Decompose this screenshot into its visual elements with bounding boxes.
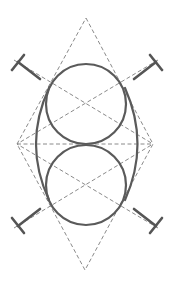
- t-mark-stem: [18, 62, 40, 79]
- t-mark-stem: [134, 209, 156, 226]
- diagram-canvas: Oval construction from two tangent circl…: [0, 0, 174, 283]
- lower-diagonal-left: [14, 144, 153, 228]
- lower-circle: [46, 145, 126, 225]
- t-mark-top-right: [134, 55, 162, 79]
- t-mark-stem: [18, 209, 40, 226]
- t-mark-stem: [134, 62, 156, 79]
- t-mark-top-left: [12, 55, 40, 79]
- upper-diagonal-left: [14, 60, 153, 144]
- oval-construction-diagram: [0, 0, 174, 283]
- t-mark-bottom-right: [134, 209, 162, 233]
- upper-circle: [46, 64, 126, 144]
- t-mark-bottom-left: [12, 209, 40, 233]
